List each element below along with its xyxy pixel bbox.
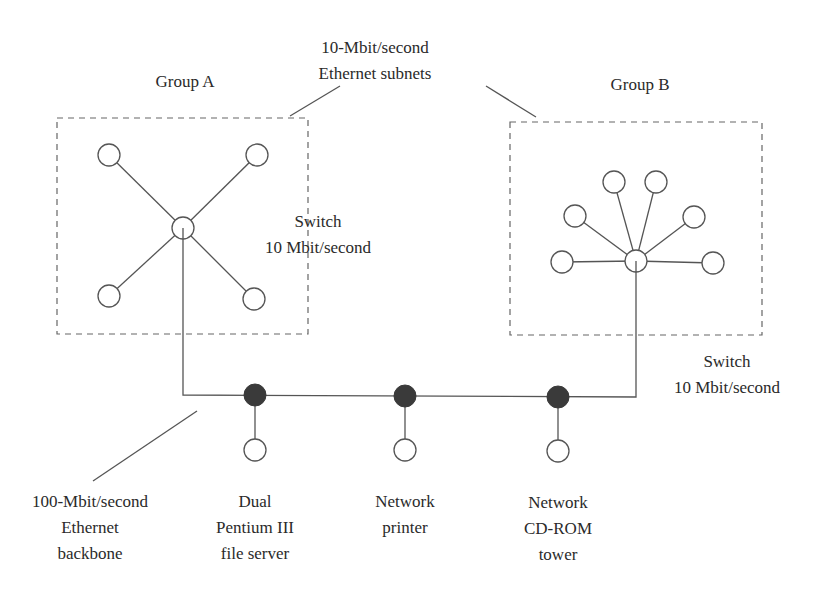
file-server-node	[244, 439, 266, 461]
workstation-node	[98, 144, 120, 166]
group-b-star	[551, 171, 724, 274]
switch-a-label: Switch 10 Mbit/second	[243, 209, 393, 261]
group-a-label: Group A	[130, 69, 240, 95]
workstation-node	[246, 144, 268, 166]
workstation-node	[702, 252, 724, 274]
file-server-tap	[244, 384, 266, 406]
workstation-node	[243, 288, 265, 310]
workstation-node	[683, 206, 705, 228]
cdrom-tower-label: Network CD-ROM tower	[498, 490, 618, 568]
workstation-node	[551, 251, 573, 273]
subnet-callout-line-b	[486, 86, 536, 117]
switch-b-label: Switch 10 Mbit/second	[652, 349, 802, 401]
workstation-node	[603, 171, 625, 193]
subnet-callout-line-a	[290, 86, 340, 116]
cdrom-tap	[547, 386, 569, 408]
group-b-label: Group B	[585, 72, 695, 98]
printer-label: Network printer	[345, 489, 465, 541]
workstation-node	[564, 205, 586, 227]
workstation-node	[98, 285, 120, 307]
printer-tap	[394, 385, 416, 407]
printer-node	[394, 439, 416, 461]
backbone-label: 100-Mbit/second Ethernet backbone	[15, 489, 165, 567]
backbone-callout-line	[93, 411, 197, 481]
file-server-label: Dual Pentium III file server	[195, 489, 315, 567]
workstation-node	[645, 171, 667, 193]
cdrom-tower-node	[547, 440, 569, 462]
subnet-label: 10-Mbit/second Ethernet subnets	[300, 35, 450, 87]
